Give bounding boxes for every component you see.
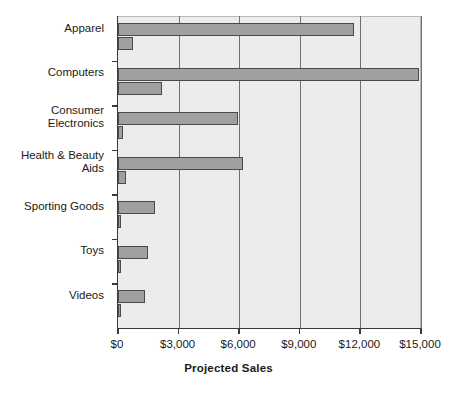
bar-videos-series-2 — [118, 304, 121, 317]
x-axis-tick — [420, 328, 422, 334]
x-axis-tick — [299, 328, 301, 334]
y-axis-tick — [112, 194, 118, 196]
bar-apparel-series-1 — [118, 23, 354, 36]
y-axis-tick — [112, 283, 118, 285]
y-axis-label-sporting-goods: Sporting Goods — [0, 200, 104, 213]
x-axis-tick — [117, 328, 119, 334]
bar-videos-series-1 — [118, 290, 145, 303]
x-axis-tick — [238, 328, 240, 334]
x-axis-tick-label: $15,000 — [399, 338, 441, 350]
x-axis-tick-labels: $0$3,000$6,000$9,000$12,000$15,000 — [0, 338, 457, 354]
x-axis-tick-label: $9,000 — [281, 338, 316, 350]
bar-computers-series-1 — [118, 68, 419, 81]
gridline-15000 — [421, 16, 422, 328]
y-axis-category-labels: ApparelComputersConsumer ElectronicsHeal… — [0, 0, 112, 394]
y-axis-label-consumer-electronics: Consumer Electronics — [0, 104, 104, 130]
y-axis-label-videos: Videos — [0, 289, 104, 302]
gridline-12000 — [360, 16, 361, 328]
y-axis-tick — [112, 150, 118, 152]
bar-sporting-goods-series-1 — [118, 201, 155, 214]
bar-consumer-electronics-series-2 — [118, 126, 123, 139]
y-axis-tick — [112, 239, 118, 241]
x-axis-tick — [178, 328, 180, 334]
x-axis-tick-label: $6,000 — [221, 338, 256, 350]
y-axis-tick — [112, 61, 118, 63]
x-axis-tick-label: $3,000 — [160, 338, 195, 350]
gridline-3000 — [179, 16, 180, 328]
bar-computers-series-2 — [118, 82, 162, 95]
gridline-9000 — [300, 16, 301, 328]
bar-toys-series-2 — [118, 260, 121, 273]
x-axis-tick — [359, 328, 361, 334]
plot-area — [117, 16, 421, 329]
x-axis-ticks — [117, 328, 421, 336]
bar-health---beauty-aids-series-1 — [118, 157, 243, 170]
y-axis-tick — [112, 105, 118, 107]
bar-consumer-electronics-series-1 — [118, 112, 238, 125]
plot-top-edge — [118, 16, 421, 17]
y-axis-label-toys: Toys — [0, 244, 104, 257]
projected-sales-bar-chart: ApparelComputersConsumer ElectronicsHeal… — [0, 0, 457, 394]
bar-health---beauty-aids-series-2 — [118, 171, 126, 184]
bar-toys-series-1 — [118, 246, 148, 259]
x-axis-tick-label: $12,000 — [339, 338, 381, 350]
y-axis-label-health---beauty-aids: Health & Beauty Aids — [0, 149, 104, 175]
bar-apparel-series-2 — [118, 37, 133, 50]
x-axis-tick-label: $0 — [111, 338, 124, 350]
gridline-6000 — [239, 16, 240, 328]
y-axis-label-apparel: Apparel — [0, 22, 104, 35]
bar-sporting-goods-series-2 — [118, 215, 121, 228]
y-axis-label-computers: Computers — [0, 66, 104, 79]
x-axis-title: Projected Sales — [0, 362, 457, 374]
